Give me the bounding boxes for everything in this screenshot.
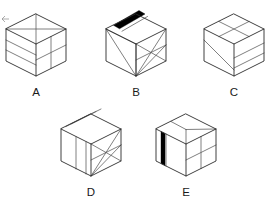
cube-figure-canvas: A B: [0, 0, 273, 204]
cube-a[interactable]: A: [6, 14, 66, 98]
stray-mark: [2, 16, 9, 22]
cube-c[interactable]: C: [204, 14, 264, 98]
figure-stage: A B: [0, 0, 273, 204]
cube-b-label: B: [132, 86, 140, 98]
cube-e[interactable]: E: [156, 114, 216, 198]
cube-d[interactable]: D: [61, 109, 121, 198]
cube-e-black-stripe: [161, 132, 165, 166]
cube-d-label: D: [87, 186, 95, 198]
cube-b[interactable]: B: [106, 11, 166, 99]
cube-e-label: E: [182, 186, 190, 198]
cube-a-label: A: [32, 86, 40, 98]
cube-c-label: C: [230, 86, 238, 98]
